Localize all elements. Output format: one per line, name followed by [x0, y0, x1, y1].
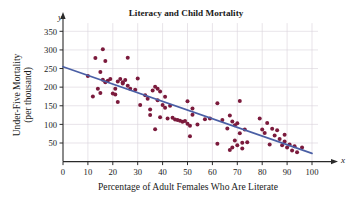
data-point	[148, 107, 152, 111]
data-point	[273, 134, 277, 138]
chart-figure: 0102030405060708090100501001502002503003…	[0, 0, 358, 198]
data-point	[225, 126, 229, 130]
x-axis-label: Percentage of Adult Females Who Are Lite…	[98, 181, 278, 192]
data-point	[158, 115, 162, 119]
data-point	[270, 127, 274, 131]
y-tick-label: 150	[44, 101, 57, 111]
data-point	[228, 113, 232, 117]
data-point	[283, 133, 287, 137]
data-point	[151, 89, 155, 93]
data-point	[91, 94, 95, 98]
y-axis-label-line2: (per thousand)	[22, 67, 34, 123]
data-point	[163, 106, 167, 110]
data-point	[240, 141, 244, 145]
data-point	[126, 56, 130, 60]
data-point	[265, 121, 269, 125]
data-point	[113, 93, 117, 97]
data-point	[235, 143, 239, 147]
data-point	[138, 103, 142, 107]
y-axis-name: y	[57, 12, 62, 22]
data-point	[203, 117, 207, 121]
data-point	[230, 119, 234, 123]
x-tick-label: 20	[109, 167, 118, 177]
data-point	[123, 78, 127, 82]
data-point	[268, 142, 272, 146]
x-tick-label: 70	[233, 167, 242, 177]
data-point	[290, 148, 294, 152]
x-tick-label: 0	[61, 167, 65, 177]
data-point	[258, 116, 262, 120]
x-tick-label: 100	[306, 167, 319, 177]
data-point	[275, 128, 279, 132]
y-tick-label: 350	[44, 27, 57, 37]
data-point	[238, 131, 242, 135]
data-point	[195, 122, 199, 126]
chart-title: Literacy and Child Mortality	[129, 8, 244, 18]
data-point	[215, 101, 219, 105]
data-point	[98, 91, 102, 95]
data-point	[118, 77, 122, 81]
data-point	[121, 81, 125, 85]
x-tick-label: 10	[84, 167, 93, 177]
y-axis-label-line1: Under-Five Mortality	[11, 53, 22, 136]
data-point	[230, 145, 234, 149]
y-tick-label: 250	[44, 64, 57, 74]
data-point	[190, 113, 194, 117]
data-point	[260, 128, 264, 132]
y-tick-label: 100	[44, 120, 57, 130]
x-tick-label: 50	[183, 167, 192, 177]
data-point	[153, 127, 157, 131]
data-point	[235, 121, 239, 125]
data-point	[278, 137, 282, 141]
data-point	[98, 70, 102, 74]
data-point	[263, 131, 267, 135]
data-point	[166, 116, 170, 120]
data-point	[103, 59, 107, 63]
x-tick-label: 30	[133, 167, 142, 177]
data-point	[116, 100, 120, 104]
data-point	[96, 87, 100, 91]
data-point	[188, 134, 192, 138]
y-tick-label: 200	[44, 82, 57, 92]
data-point	[148, 113, 152, 117]
y-tick-label: 300	[44, 45, 57, 55]
data-point	[113, 87, 117, 91]
data-point	[93, 56, 97, 60]
data-point	[240, 147, 244, 151]
data-point	[245, 140, 249, 144]
data-point	[188, 124, 192, 128]
data-point	[186, 99, 190, 103]
x-tick-label: 60	[208, 167, 217, 177]
data-point	[238, 99, 242, 103]
scatter-plot: 0102030405060708090100501001502002503003…	[0, 0, 358, 198]
data-point	[190, 106, 194, 110]
data-point	[101, 47, 105, 51]
x-axis-name: x	[340, 155, 345, 165]
data-point	[215, 142, 219, 146]
x-tick-label: 90	[283, 167, 292, 177]
data-point	[108, 77, 112, 81]
y-tick-label: 50	[48, 138, 57, 148]
data-point	[233, 138, 237, 142]
x-tick-label: 40	[158, 167, 167, 177]
data-point	[295, 150, 299, 154]
data-point	[136, 77, 140, 81]
data-point	[163, 95, 167, 99]
x-tick-label: 80	[258, 167, 267, 177]
data-point	[158, 90, 162, 94]
